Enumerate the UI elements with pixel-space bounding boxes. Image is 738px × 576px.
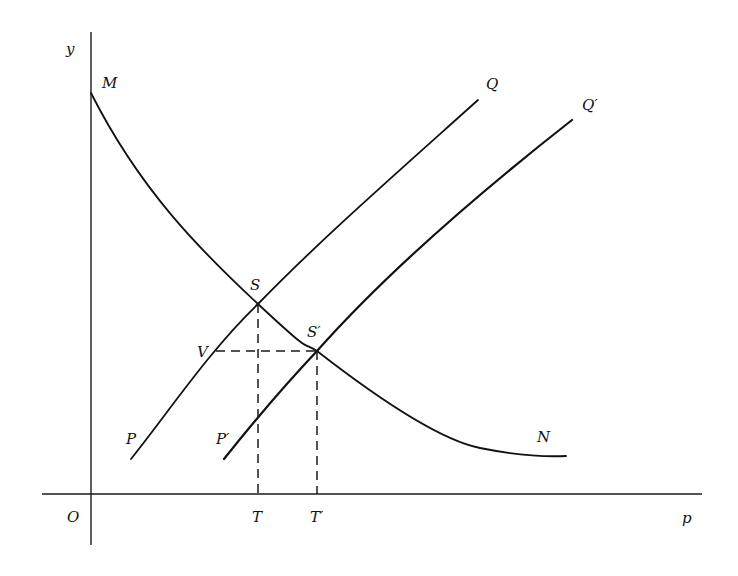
label-M: M — [101, 74, 118, 92]
origin-label: O — [67, 508, 79, 526]
demand-curve-MN — [91, 93, 566, 456]
label-Pprime: P′ — [215, 430, 230, 448]
x-axis-label: p — [682, 509, 692, 527]
supply-demand-diagram: y p O M N P Q P′ Q′ S S′ V T T′ — [0, 0, 738, 576]
label-S: S — [250, 276, 260, 294]
y-axis-label: y — [65, 40, 75, 58]
label-Qprime: Q′ — [582, 96, 598, 114]
label-N: N — [536, 428, 551, 446]
label-Sprime: S′ — [307, 323, 321, 341]
label-Q: Q — [486, 75, 498, 93]
supply-curve-PQ — [131, 100, 478, 459]
label-T: T — [252, 508, 263, 526]
label-Tprime: T′ — [310, 508, 324, 526]
label-P: P — [125, 430, 137, 448]
